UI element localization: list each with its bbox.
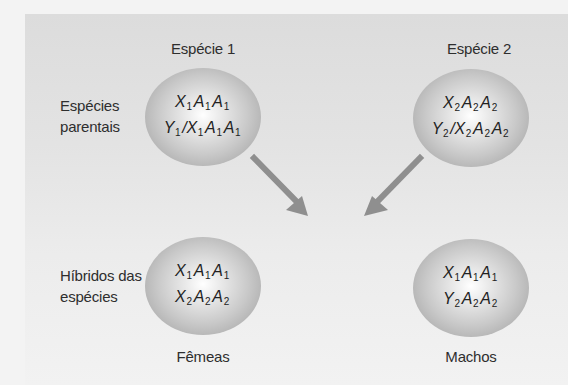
arrows: [0, 0, 568, 385]
arrow-down-right-icon: [254, 158, 308, 216]
arrow-down-left-icon: [364, 158, 420, 216]
